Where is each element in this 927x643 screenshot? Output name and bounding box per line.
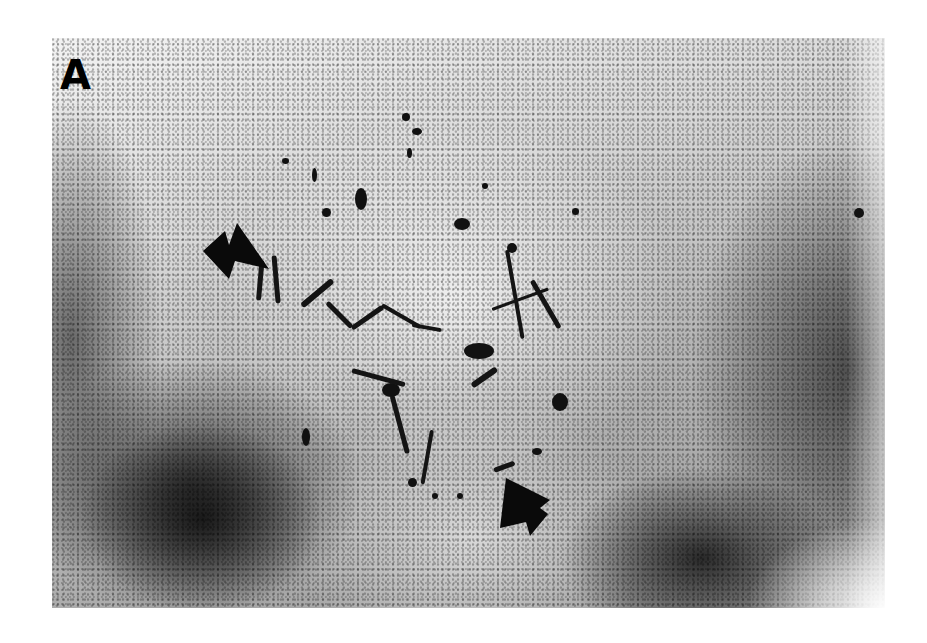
arrowhead-left-icon <box>203 223 273 281</box>
micrograph-panel <box>52 38 885 608</box>
panel-label: A <box>60 55 91 95</box>
corner-fade <box>745 518 885 608</box>
arrowhead-bottom-icon <box>500 478 552 538</box>
